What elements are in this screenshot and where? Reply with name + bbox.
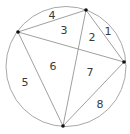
- region-label-8: 8: [97, 98, 104, 111]
- region-labels: 12345678: [22, 9, 112, 111]
- point-bottom: [61, 124, 65, 128]
- region-label-7: 7: [87, 66, 94, 79]
- region-label-5: 5: [22, 76, 29, 89]
- region-label-1: 1: [105, 25, 112, 38]
- circle-partition-diagram: 12345678: [0, 0, 130, 134]
- region-label-6: 6: [50, 60, 57, 73]
- point-left: [16, 30, 20, 34]
- point-top: [84, 8, 88, 12]
- region-label-4: 4: [49, 9, 56, 22]
- chord-right-bottom: [63, 62, 124, 126]
- region-label-3: 3: [61, 24, 68, 37]
- point-right: [122, 60, 126, 64]
- region-label-2: 2: [89, 31, 96, 44]
